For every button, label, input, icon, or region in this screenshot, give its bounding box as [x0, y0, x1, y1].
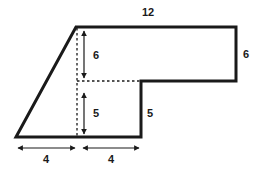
label-top-edge-12: 12: [142, 6, 154, 18]
label-upper-height-6: 6: [93, 49, 99, 61]
label-right-edge-6: 6: [243, 48, 249, 60]
label-base-right-4: 4: [108, 153, 115, 165]
label-notch-edge-5: 5: [147, 107, 153, 119]
figure-canvas: 12 6 6 5 5 4 4: [0, 0, 256, 171]
label-base-left-4: 4: [43, 153, 50, 165]
polygon-outline: [16, 27, 236, 137]
label-lower-height-5: 5: [93, 107, 99, 119]
geometry-figure: 12 6 6 5 5 4 4: [0, 0, 256, 171]
